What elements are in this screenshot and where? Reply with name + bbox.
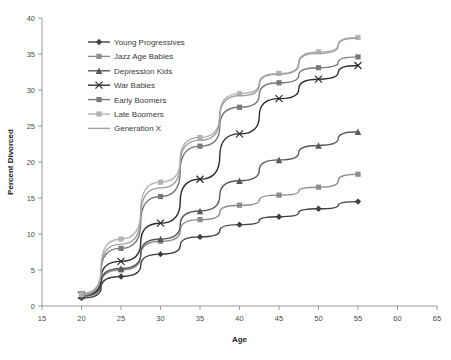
data-point-marker [316,65,321,70]
legend-item[interactable]: Generation X [88,124,162,133]
x-tick-label: 20 [77,314,85,323]
x-tick-label: 60 [393,314,401,323]
y-tick-label: 0 [31,302,35,311]
data-point-marker [96,39,102,45]
x-tick-label: 15 [38,314,46,323]
x-tick-label: 65 [433,314,441,323]
line-chart-plot: 05101520253035401520253035404550556065Ag… [0,0,451,360]
legend-item[interactable]: Depression Kids [88,67,172,76]
data-point-marker [197,234,203,240]
data-point-marker [236,221,242,227]
legend-label: Depression Kids [114,67,172,76]
data-point-marker [316,185,321,190]
y-tick-label: 25 [27,122,35,131]
data-point-marker [96,97,101,102]
data-point-marker [237,203,242,208]
chart-container: 05101520253035401520253035404550556065Ag… [0,0,451,360]
legend-label: Young Progressives [114,38,185,47]
x-tick-label: 40 [235,314,243,323]
y-tick-label: 10 [27,230,35,239]
data-point-marker [157,251,163,257]
x-axis-title: Age [232,335,248,344]
legend-item[interactable]: Jazz Age Babies [88,52,173,61]
data-point-marker [118,273,124,279]
legend-label: Jazz Age Babies [114,52,173,61]
data-point-marker [197,217,202,222]
data-point-marker [96,111,101,116]
data-point-marker [276,193,281,198]
data-point-marker [276,80,281,85]
legend-item[interactable]: War Babies [88,81,155,90]
series-line [82,37,359,294]
x-tick-label: 45 [275,314,283,323]
x-tick-label: 35 [196,314,204,323]
legend-label: Early Boomers [114,96,166,105]
series-line [82,57,359,294]
y-tick-label: 15 [27,194,35,203]
data-point-marker [276,214,282,220]
data-point-marker [197,144,202,149]
y-tick-label: 30 [27,86,35,95]
data-point-marker [315,206,321,212]
y-tick-label: 40 [27,14,35,23]
data-point-marker [96,54,101,59]
y-tick-label: 20 [27,158,35,167]
x-tick-label: 50 [314,314,322,323]
data-point-marker [158,180,163,185]
x-tick-label: 55 [354,314,362,323]
data-point-marker [118,246,123,251]
data-point-marker [237,105,242,110]
data-point-marker [197,135,202,140]
y-tick-label: 35 [27,50,35,59]
legend-label: Late Boomers [114,110,164,119]
legend-item[interactable]: Late Boomers [88,110,164,119]
x-tick-label: 25 [117,314,125,323]
y-axis-title: Percent Divorced [6,129,15,195]
legend-label: War Babies [114,81,155,90]
legend-label: Generation X [114,124,162,133]
data-point-marker [355,172,360,177]
data-point-marker [118,236,123,241]
series-early-boomers [79,54,361,296]
data-point-marker [355,35,360,40]
legend-item[interactable]: Early Boomers [88,96,166,105]
data-point-marker [158,194,163,199]
legend-item[interactable]: Young Progressives [88,38,185,47]
data-point-marker [355,54,360,59]
x-tick-label: 30 [156,314,164,323]
y-tick-label: 5 [31,266,35,275]
data-point-marker [355,198,361,204]
